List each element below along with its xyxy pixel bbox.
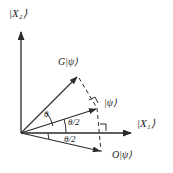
y-axis-label: |X₂⟩ — [9, 8, 27, 19]
vector-label-g-psi: G|ψ⟩ — [58, 57, 78, 67]
arc-theta-half-upper — [64, 119, 66, 133]
angle-label-theta-half-upper: θ/2 — [68, 118, 79, 127]
vector-label-o-psi: O|ψ⟩ — [112, 150, 132, 160]
arc-theta-half-lower — [48, 133, 49, 139]
dashed-g-to-psi — [79, 78, 97, 108]
x-axis-label: |X₁⟩ — [137, 118, 155, 129]
angle-label-theta-half-lower: θ/2 — [64, 135, 75, 144]
diagram-canvas — [0, 0, 173, 173]
vector-label-psi: |ψ⟩ — [104, 98, 117, 108]
vector-o-psi — [21, 133, 100, 151]
angle-label-theta: θ — [44, 110, 48, 119]
dashed-psi-to-o — [97, 108, 101, 152]
vector-diagram-figure: |X₂⟩ |X₁⟩ G|ψ⟩ |ψ⟩ O|ψ⟩ θ θ/2 θ/2 — [0, 0, 173, 173]
right-angle-mark-xaxis — [100, 124, 106, 131]
